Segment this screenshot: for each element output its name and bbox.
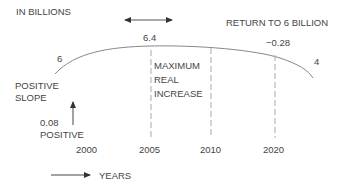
slope-start-value: 0.08 bbox=[40, 117, 59, 129]
slope-start-label: POSITIVE bbox=[40, 129, 84, 141]
max-increase-line3: INCREASE bbox=[154, 88, 203, 100]
unit-label: IN BILLIONS bbox=[16, 6, 71, 18]
positive-slope-line1: POSITIVE bbox=[15, 80, 59, 92]
slope-end-value: −0.28 bbox=[266, 37, 290, 49]
start-value: 6 bbox=[57, 53, 62, 65]
max-increase-line1: MAXIMUM bbox=[154, 60, 200, 72]
peak-value: 6.4 bbox=[143, 32, 156, 44]
year-2000: 2000 bbox=[76, 144, 97, 156]
population-curve-diagram: IN BILLIONS RETURN TO 6 BILLION 6 6.4 −0… bbox=[0, 0, 343, 195]
year-2010: 2010 bbox=[200, 144, 221, 156]
year-2020: 2020 bbox=[263, 144, 284, 156]
positive-slope-line2: SLOPE bbox=[15, 92, 47, 104]
end-value: 4 bbox=[314, 56, 319, 68]
max-increase-line2: REAL bbox=[154, 74, 179, 86]
return-label: RETURN TO 6 BILLION bbox=[226, 17, 328, 29]
year-2005: 2005 bbox=[139, 144, 160, 156]
years-axis-label: YEARS bbox=[99, 170, 131, 182]
